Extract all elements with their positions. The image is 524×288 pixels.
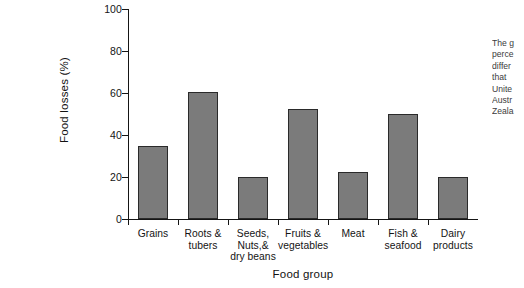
bar-series (128, 9, 478, 219)
category-label-line: Roots & (178, 228, 228, 240)
side-caption-line: Austr (492, 95, 524, 106)
side-caption-line: that (492, 72, 524, 83)
side-caption-line: The g (492, 38, 524, 49)
y-tick-label-wrap: 80 (84, 46, 122, 57)
side-caption-line: Unite (492, 84, 524, 95)
x-axis-title: Food group (128, 268, 478, 280)
category-label-line: tubers (178, 240, 228, 252)
bar (288, 109, 318, 219)
category-label-line: products (428, 240, 478, 252)
y-tick-label: 60 (92, 88, 122, 99)
bar (338, 172, 368, 219)
bar (188, 92, 218, 219)
category-label-line: Meat (328, 228, 378, 240)
y-axis-title: Food losses (%) (58, 30, 70, 170)
chart-figure: Food losses (%) 020406080100 GrainsRoots… (0, 0, 524, 288)
category-label-line: vegetables (278, 240, 328, 252)
category-label-line: Fish & (378, 228, 428, 240)
category-label-line: Fruits & (278, 228, 328, 240)
side-caption-line: differ (492, 61, 524, 72)
x-tick-mark (328, 219, 329, 225)
x-tick-mark (178, 219, 179, 225)
category-label-line: Nuts,& (228, 240, 278, 252)
x-tick-mark (278, 219, 279, 225)
bar (388, 114, 418, 219)
bar (138, 146, 168, 220)
category-label: Meat (328, 228, 378, 240)
category-label-line: seafood (378, 240, 428, 252)
category-label: Seeds,Nuts,&dry beans (228, 228, 278, 263)
bar (238, 177, 268, 219)
y-tick-label-wrap: 100 (84, 4, 122, 15)
category-label-line: Seeds, (228, 228, 278, 240)
y-tick-label: 40 (92, 130, 122, 141)
category-label: Fruits &vegetables (278, 228, 328, 251)
category-label-line: dry beans (228, 251, 278, 263)
x-axis-line (128, 219, 478, 220)
y-tick-label-wrap: 20 (84, 172, 122, 183)
y-tick-label-wrap: 40 (84, 130, 122, 141)
y-tick-label: 0 (92, 214, 122, 225)
x-tick-mark (378, 219, 379, 225)
x-tick-mark (128, 219, 129, 225)
category-label-line: Dairy (428, 228, 478, 240)
x-tick-mark (428, 219, 429, 225)
y-tick-label: 100 (92, 4, 122, 15)
bar (438, 177, 468, 219)
x-tick-mark (228, 219, 229, 225)
category-label-line: Grains (128, 228, 178, 240)
y-tick-label: 20 (92, 172, 122, 183)
side-caption-text: The gpercedifferthatUniteAustrZeala (492, 38, 524, 118)
category-label: Dairyproducts (428, 228, 478, 251)
category-label: Fish &seafood (378, 228, 428, 251)
y-tick-label: 80 (92, 46, 122, 57)
y-tick-label-wrap: 60 (84, 88, 122, 99)
y-tick-label-wrap: 0 (84, 214, 122, 225)
side-caption-line: Zeala (492, 106, 524, 117)
category-label: Grains (128, 228, 178, 240)
category-label: Roots &tubers (178, 228, 228, 251)
side-caption-line: perce (492, 49, 524, 60)
